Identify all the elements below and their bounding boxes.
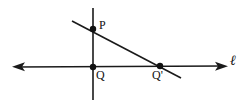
transversal-line (72, 21, 181, 78)
figure-canvas (0, 0, 250, 105)
point-p-label: P (99, 19, 106, 31)
point-p-dot (90, 26, 96, 32)
line-l (16, 66, 224, 67)
point-q-label: Q (96, 69, 105, 81)
geometry-figure: P Q Q' ℓ (0, 0, 250, 105)
line-l-group (12, 62, 228, 72)
line-l-label: ℓ (230, 54, 236, 68)
point-q-prime-label: Q' (152, 69, 163, 81)
